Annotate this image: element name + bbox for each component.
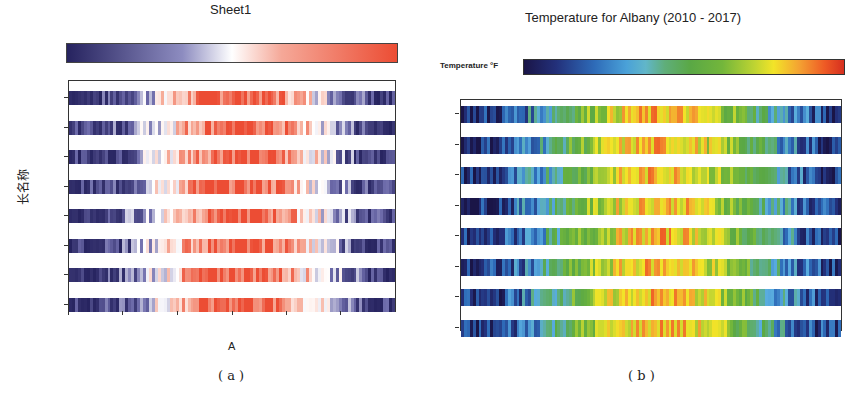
- chart-a-caption: ( a ): [218, 368, 244, 383]
- chart-a-plot-area: [68, 80, 396, 312]
- heatmap-row-2016: [461, 137, 841, 154]
- heatmap-row-2013: [69, 209, 395, 223]
- y-tick-mark: [64, 97, 68, 98]
- chart-b-title: Temperature for Albany (2010 - 2017): [525, 10, 741, 25]
- x-tick-mark: [68, 311, 69, 315]
- chart-a-x-axis-title: A: [228, 340, 235, 352]
- y-tick-mark: [455, 174, 459, 175]
- y-tick-mark: [64, 186, 68, 187]
- y-tick-mark: [64, 304, 68, 305]
- x-tick-mark: [122, 311, 123, 315]
- y-tick-mark: [64, 274, 68, 275]
- heatmap-row-2016: [69, 121, 395, 135]
- chart-b-caption: ( b ): [628, 368, 655, 383]
- x-tick-mark: [340, 311, 341, 315]
- chart-a-colorbar: [66, 43, 398, 63]
- chart-b-colorbar: [523, 59, 845, 75]
- heatmap-row-2010: [461, 320, 841, 337]
- y-tick-mark: [455, 144, 459, 145]
- y-tick-mark: [455, 266, 459, 267]
- heatmap-row-2014: [461, 198, 841, 215]
- y-tick-mark: [64, 127, 68, 128]
- heatmap-row-2012: [69, 239, 395, 253]
- y-tick-mark: [455, 205, 459, 206]
- y-tick-mark: [455, 113, 459, 114]
- x-tick-mark: [232, 311, 233, 315]
- chart-b-colorbar-label: Temperature °F: [440, 61, 498, 70]
- y-tick-mark: [455, 327, 459, 328]
- heatmap-row-2011: [461, 289, 841, 306]
- heatmap-row-2015: [69, 150, 395, 164]
- heatmap-row-2017: [69, 91, 395, 105]
- y-tick-mark: [455, 296, 459, 297]
- heatmap-row-2012: [461, 259, 841, 276]
- y-tick-mark: [64, 156, 68, 157]
- heatmap-row-2017: [461, 106, 841, 123]
- x-tick-mark: [286, 311, 287, 315]
- x-tick-mark: [177, 311, 178, 315]
- heatmap-row-2013: [461, 228, 841, 245]
- heatmap-row-2014: [69, 180, 395, 194]
- chart-a-title: Sheet1: [210, 2, 251, 17]
- heatmap-row-2015: [461, 167, 841, 184]
- chart-b-plot-area: [460, 99, 842, 331]
- heatmap-row-2010: [69, 298, 395, 312]
- chart-a-y-axis-title: 长名称: [14, 169, 31, 205]
- heatmap-row-2011: [69, 268, 395, 282]
- y-tick-mark: [455, 235, 459, 236]
- y-tick-mark: [64, 215, 68, 216]
- y-tick-mark: [64, 245, 68, 246]
